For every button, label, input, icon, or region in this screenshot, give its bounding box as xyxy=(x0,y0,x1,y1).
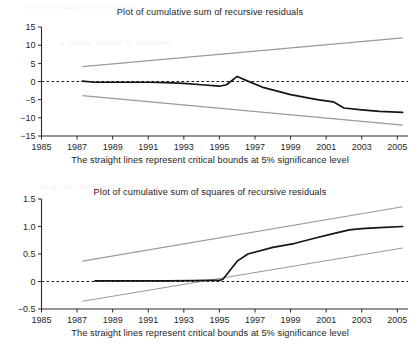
x-tick-label-cusumsq: 1997 xyxy=(245,315,265,325)
y-tick-label-cusum: 10 xyxy=(25,40,35,50)
x-tick-label-cusumsq: 1995 xyxy=(209,315,229,325)
y-tick-label-cusum: −5 xyxy=(25,95,35,105)
y-tick-label-cusum: −15 xyxy=(20,131,35,141)
y-tick-label-cusumsq: −0.5 xyxy=(18,304,36,314)
x-tick-label-cusumsq: 2001 xyxy=(316,315,336,325)
x-tick-label-cusumsq: 2003 xyxy=(352,315,372,325)
y-tick-label-cusum: −10 xyxy=(20,113,35,123)
bleed-text-line-3: long run coefficients are not xyxy=(40,182,150,191)
plot-area-cusum: 151050−5−10−1519851987198919911993199519… xyxy=(0,0,420,177)
y-tick-label-cusum: 5 xyxy=(30,59,35,69)
critical-bound-line-cusumsq-2 xyxy=(82,248,402,301)
x-tick-label-cusum: 1987 xyxy=(67,142,87,152)
x-tick-label-cusum: 2001 xyxy=(316,142,336,152)
x-tick-label-cusum: 1991 xyxy=(138,142,158,152)
x-tick-label-cusum: 1989 xyxy=(103,142,123,152)
critical-bound-line-cusum-2 xyxy=(82,96,402,125)
y-tick-label-cusumsq: 0 xyxy=(30,277,35,287)
x-tick-label-cusumsq: 2005 xyxy=(387,315,407,325)
x-tick-label-cusumsq: 1987 xyxy=(67,315,87,325)
x-tick-label-cusumsq: 1989 xyxy=(103,315,123,325)
x-tick-label-cusum: 1999 xyxy=(281,142,301,152)
series-line-cusumsq-0 xyxy=(95,227,403,281)
x-tick-label-cusum: 1997 xyxy=(245,142,265,152)
x-tick-label-cusumsq: 1993 xyxy=(174,315,194,325)
x-tick-label-cusum: 1993 xyxy=(174,142,194,152)
x-tick-label-cusum: 1985 xyxy=(31,142,51,152)
x-tick-label-cusum: 2003 xyxy=(352,142,372,152)
y-tick-label-cusumsq: 1.0 xyxy=(23,222,36,232)
y-tick-label-cusum: 15 xyxy=(25,22,35,32)
x-tick-label-cusumsq: 1999 xyxy=(281,315,301,325)
chart-caption-cusum: The straight lines represent critical bo… xyxy=(0,155,420,165)
x-tick-label-cusumsq: 1991 xyxy=(138,315,158,325)
bleed-text-line-1: of the variables in the model xyxy=(24,2,136,11)
x-tick-label-cusum: 1995 xyxy=(209,142,229,152)
chart-panel-cusumsq: Plot of cumulative sum of squares of rec… xyxy=(0,177,420,354)
y-tick-label-cusumsq: 0.5 xyxy=(23,249,36,259)
y-tick-label-cusumsq: 1.5 xyxy=(23,194,36,204)
y-tick-label-cusum: 0 xyxy=(30,77,35,87)
critical-bound-line-cusumsq-1 xyxy=(82,207,402,261)
x-tick-label-cusum: 2005 xyxy=(387,142,407,152)
chart-panel-cusum: Plot of cumulative sum of recursive resi… xyxy=(0,0,420,177)
bleed-text-line-2: a similar pattern is observed xyxy=(60,38,172,47)
x-tick-label-cusumsq: 1985 xyxy=(31,315,51,325)
chart-caption-cusumsq: The straight lines represent critical bo… xyxy=(0,328,420,338)
figure-page: Plot of cumulative sum of recursive resi… xyxy=(0,0,420,354)
